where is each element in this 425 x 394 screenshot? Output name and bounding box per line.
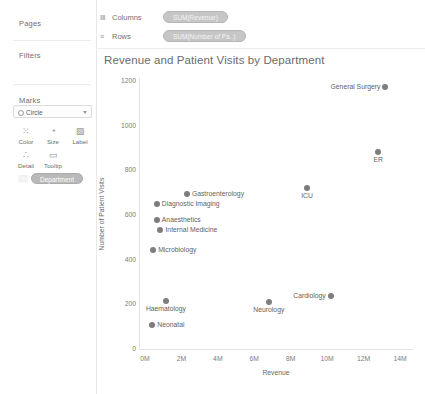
y-axis-tick: 600 — [106, 211, 136, 218]
pages-shelf-label: Pages — [19, 19, 41, 28]
marks-pill-row: ░░ Department — [18, 173, 92, 185]
scatter-point-label: Diagnostic Imaging — [162, 200, 220, 207]
y-axis-tick: 800 — [106, 166, 136, 173]
columns-pill[interactable]: SUM(Revenue) — [163, 11, 228, 23]
scatter-point-label: Gastroenterology — [192, 190, 244, 197]
circle-icon — [18, 110, 24, 116]
marks-type-dropdown[interactable]: Circle — [13, 105, 92, 118]
scatter-point-label: Anaesthetics — [162, 216, 201, 223]
scatter-point-label: ICU — [301, 192, 313, 199]
scatter-point[interactable] — [163, 298, 169, 304]
scatter-point[interactable] — [154, 217, 160, 223]
marks-shelf-label: Marks — [19, 96, 40, 105]
y-axis-tick: 1000 — [106, 121, 136, 128]
marks-detail-label: Detail — [14, 162, 38, 169]
x-axis-tick: 10M — [312, 355, 342, 362]
y-axis-tick-labels: 020040060080010001200 — [104, 0, 136, 394]
x-axis-tick: 2M — [166, 355, 196, 362]
filters-shelf-label: Filters — [19, 51, 41, 60]
y-axis-tick: 200 — [106, 300, 136, 307]
x-axis-tick: 12M — [349, 355, 379, 362]
scatter-point[interactable] — [375, 149, 381, 155]
scatter-point-label: Internal Medicine — [165, 226, 217, 233]
scatter-point-label: Microbiology — [158, 246, 196, 253]
scatter-point[interactable] — [149, 322, 155, 328]
detail-icon: ∴ — [14, 149, 38, 161]
scatter-point[interactable] — [150, 247, 156, 253]
scatter-plot-area[interactable]: General SurgeryERICUGastroenterologyDiag… — [140, 74, 412, 348]
pages-shelf-divider — [13, 40, 91, 41]
scatter-point-label: Neonatal — [157, 321, 184, 328]
marks-type-value: Circle — [26, 109, 43, 116]
scatter-point[interactable] — [154, 201, 160, 207]
marks-tooltip-label: Tooltip — [41, 162, 65, 169]
marks-label-button[interactable]: ▧ Label — [68, 125, 92, 145]
marks-color-label: Color — [14, 138, 38, 145]
size-icon: ◔ — [41, 125, 65, 137]
y-axis-tick: 0 — [106, 345, 136, 352]
scatter-point-label: ER — [373, 156, 382, 163]
x-axis-tick: 8M — [276, 355, 306, 362]
rows-pill[interactable]: SUM(Number of Pa..) — [163, 30, 246, 42]
scatter-point[interactable] — [184, 191, 190, 197]
label-icon: ▧ — [68, 125, 92, 137]
scatter-point-label: Haematology — [146, 305, 186, 312]
marks-color-button[interactable]: ⁙ Color — [14, 125, 38, 145]
scatter-point[interactable] — [266, 299, 272, 305]
marks-card: Circle ⁙ Color ◔ Size ▧ Label ∴ Detail ▭… — [13, 105, 92, 189]
left-shelf-panel: Pages Filters Marks Circle ⁙ Color ◔ Siz… — [0, 0, 97, 394]
x-axis-title: Revenue — [262, 369, 289, 376]
y-axis-title: Number of Patient Visits — [98, 178, 105, 251]
scatter-point-label: Cardiology — [293, 292, 326, 299]
marks-department-pill[interactable]: Department — [31, 173, 83, 184]
chart-title: Revenue and Patient Visits by Department — [104, 54, 325, 66]
tooltip-icon: ▭ — [41, 149, 65, 161]
detail-field-icon: ░░ — [18, 175, 28, 182]
scatter-point[interactable] — [328, 293, 334, 299]
shelf-separator — [96, 48, 425, 49]
scatter-point-label: General Surgery — [331, 83, 381, 90]
scatter-point[interactable] — [157, 227, 163, 233]
scatter-point-label: Neurology — [253, 306, 284, 313]
scatter-point[interactable] — [304, 185, 310, 191]
marks-tooltip-button[interactable]: ▭ Tooltip — [41, 149, 65, 169]
x-axis-tick-labels: 0M2M4M6M8M10M12M14M — [0, 355, 425, 367]
x-axis-tick: 0M — [130, 355, 160, 362]
marks-detail-button[interactable]: ∴ Detail — [14, 149, 38, 169]
scatter-point[interactable] — [382, 84, 388, 90]
y-axis-tick: 400 — [106, 255, 136, 262]
chevron-down-icon — [83, 111, 87, 114]
marks-size-button[interactable]: ◔ Size — [41, 125, 65, 145]
x-axis-tick: 6M — [239, 355, 269, 362]
x-axis-tick: 4M — [203, 355, 233, 362]
x-axis-tick: 14M — [385, 355, 415, 362]
color-icon: ⁙ — [14, 125, 38, 137]
x-axis-line — [139, 349, 413, 350]
y-axis-tick: 1200 — [106, 77, 136, 84]
marks-label-caption: Label — [68, 138, 92, 145]
marks-size-label: Size — [41, 138, 65, 145]
filters-shelf-divider — [13, 84, 91, 85]
